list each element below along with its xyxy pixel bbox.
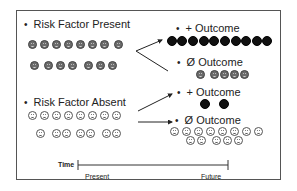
gray-smiley-icon — [96, 61, 105, 70]
positive-outcome-circle-icon — [199, 36, 209, 46]
gray-smiley-icon — [68, 61, 77, 70]
diagram-frame — [16, 10, 281, 180]
gray-smiley-icon — [40, 40, 49, 49]
outcome-label-present-null: •Ø Outcome — [177, 56, 243, 69]
white-smiley-icon — [223, 136, 232, 145]
white-smiley-icon — [234, 136, 243, 145]
gray-smiley-icon — [220, 70, 229, 79]
white-smiley-icon — [197, 136, 206, 145]
gray-smiley-icon — [114, 40, 123, 49]
gray-smiley-icon — [44, 61, 53, 70]
gray-smiley-icon — [88, 40, 97, 49]
white-smiley-icon — [212, 136, 221, 145]
positive-outcome-circle-icon — [177, 36, 187, 46]
bullet: • — [24, 97, 28, 109]
gray-smiley-icon — [30, 61, 39, 70]
outcome-label-absent-positive: •+ Outcome — [177, 86, 241, 99]
white-smiley-icon — [112, 111, 121, 120]
gray-smiley-icon — [108, 61, 117, 70]
white-smiley-icon — [254, 127, 263, 136]
outcome-text: Ø Outcome — [185, 114, 241, 126]
group-label-risk-present: •Risk Factor Present — [24, 18, 130, 31]
positive-outcome-circle-icon — [209, 36, 219, 46]
bullet: • — [175, 115, 179, 127]
positive-outcome-circle-icon — [188, 36, 198, 46]
outcome-text: Ø Outcome — [187, 56, 243, 68]
white-smiley-icon — [206, 127, 215, 136]
positive-outcome-circle-icon — [200, 99, 210, 109]
gray-smiley-icon — [196, 70, 205, 79]
gray-smiley-icon — [84, 61, 93, 70]
gray-smiley-icon — [28, 40, 37, 49]
positive-outcome-circle-icon — [231, 36, 241, 46]
timeline-end-label: Future — [201, 173, 221, 180]
gray-smiley-icon — [210, 70, 219, 79]
positive-outcome-circle-icon — [252, 36, 262, 46]
white-smiley-icon — [88, 111, 97, 120]
white-smiley-icon — [36, 129, 45, 138]
outcome-label-present-positive: •+ Outcome — [176, 22, 240, 35]
positive-outcome-circle-icon — [219, 99, 229, 109]
positive-outcome-circle-icon — [262, 36, 272, 46]
positive-outcome-circle-icon — [241, 36, 251, 46]
bullet: • — [176, 23, 180, 35]
gray-smiley-icon — [240, 70, 249, 79]
white-smiley-icon — [170, 127, 179, 136]
white-smiley-icon — [64, 111, 73, 120]
risk-present-text: Risk Factor Present — [34, 18, 131, 30]
white-smiley-icon — [194, 127, 203, 136]
outcome-label-absent-null: •Ø Outcome — [175, 114, 241, 127]
white-smiley-icon — [218, 127, 227, 136]
white-smiley-icon — [76, 129, 85, 138]
timeline-title: Time — [58, 161, 74, 168]
gray-smiley-icon — [64, 40, 73, 49]
white-smiley-icon — [86, 129, 95, 138]
white-smiley-icon — [100, 111, 109, 120]
white-smiley-icon — [62, 129, 71, 138]
outcome-text: + Outcome — [186, 22, 240, 34]
positive-outcome-circle-icon — [220, 36, 230, 46]
gray-smiley-icon — [56, 61, 65, 70]
timeline-start-label: Present — [85, 173, 109, 180]
white-smiley-icon — [52, 129, 61, 138]
white-smiley-icon — [52, 111, 61, 120]
risk-absent-text: Risk Factor Absent — [34, 96, 126, 108]
white-smiley-icon — [182, 127, 191, 136]
white-smiley-icon — [230, 127, 239, 136]
white-smiley-icon — [242, 127, 251, 136]
positive-outcome-circle-icon — [167, 36, 177, 46]
bullet: • — [177, 87, 181, 99]
white-smiley-icon — [102, 129, 111, 138]
white-smiley-icon — [112, 129, 121, 138]
bullet: • — [24, 19, 28, 31]
white-smiley-icon — [76, 111, 85, 120]
outcome-text: + Outcome — [187, 86, 241, 98]
group-label-risk-absent: •Risk Factor Absent — [24, 96, 126, 109]
gray-smiley-icon — [230, 70, 239, 79]
white-smiley-icon — [28, 111, 37, 120]
white-smiley-icon — [186, 136, 195, 145]
white-smiley-icon — [40, 111, 49, 120]
gray-smiley-icon — [100, 40, 109, 49]
gray-smiley-icon — [76, 40, 85, 49]
gray-smiley-icon — [52, 40, 61, 49]
bullet: • — [177, 57, 181, 69]
